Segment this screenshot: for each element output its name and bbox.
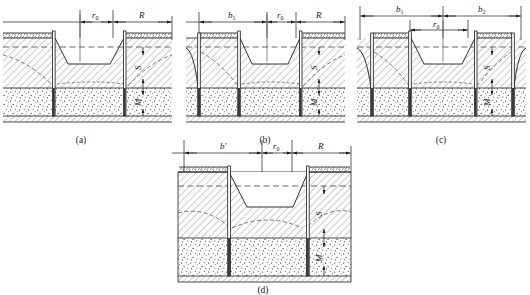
panel-b-label-r0: r0 [277, 10, 284, 21]
panel-c-label-M: M [482, 98, 492, 107]
panel-a-ground-hatch-right [126, 33, 172, 38]
panel-b-well-right [299, 31, 302, 116]
panel-d-label-R: R [317, 141, 324, 151]
figure-container: r0 R [0, 0, 530, 295]
panel-c-caption: (c) [436, 135, 447, 146]
panel-c-well-right [474, 31, 477, 116]
panel-b-well-left [238, 31, 241, 116]
panel-b-label-M: M [309, 98, 319, 107]
panel-b-label-b1: b1 [228, 10, 236, 21]
panel-a-label-S: S [133, 65, 143, 70]
panel-d: b′ r0 R [172, 140, 351, 295]
panel-c-ground-hatch-left [373, 33, 408, 38]
panel-c-dim-arrows [361, 16, 520, 30]
panel-d-aquifer-layer [178, 238, 351, 276]
panel-a-caption: (a) [76, 135, 87, 146]
panel-c-label-r0: r0 [433, 19, 440, 30]
panel-d-label-r0: r0 [273, 141, 280, 152]
panel-d-caption: (d) [257, 285, 268, 295]
panel-c-well-outer-right [512, 33, 515, 116]
panel-c-label-b1: b1 [396, 4, 404, 15]
panel-b-bedrock-base [186, 116, 345, 122]
panel-b-ground-hatch-right [302, 33, 345, 38]
panel-c-aquifer-layer [357, 88, 526, 116]
panel-c-label-b2: b2 [478, 4, 486, 15]
panel-a-label-M: M [133, 98, 143, 107]
panel-a-aquifer-layer [3, 88, 172, 116]
panel-c: b1 b2 r0 [357, 4, 526, 146]
panel-c-well-left [409, 31, 412, 116]
panel-a-ground-hatch-left [3, 33, 52, 38]
panel-d-ground-hatch-left [179, 167, 227, 172]
panel-d-ground-hatch-right [310, 167, 350, 172]
panel-d-bedrock-base [178, 276, 351, 282]
panel-c-well-outer-left [371, 33, 374, 116]
panel-c-bedrock-base [357, 116, 526, 122]
panel-a-well-right [123, 31, 126, 116]
panel-b-caption: (b) [259, 135, 270, 146]
panel-b-aquifer-layer [186, 88, 345, 116]
panel-b-label-R: R [315, 10, 322, 20]
panel-b-well-outer-left [198, 33, 201, 116]
panel-b-label-S: S [309, 65, 319, 70]
panel-a-label-R: R [138, 10, 145, 20]
panel-d-label-S: S [314, 211, 324, 216]
panel-a-well-left [53, 31, 56, 116]
panel-c-label-S: S [482, 65, 492, 70]
panel-b: b1 r0 R [186, 10, 345, 146]
panel-d-well-left [228, 166, 231, 276]
panel-a-bedrock-base [3, 116, 172, 122]
panel-a-label-r0: r0 [92, 10, 99, 21]
panel-d-well-right [306, 166, 309, 276]
panel-b-ground-hatch-left [200, 33, 237, 38]
panel-d-label-bprime: b′ [220, 141, 228, 151]
panel-a: r0 R [3, 10, 172, 146]
panel-c-ground-hatch-right [477, 33, 512, 38]
panel-d-label-M: M [314, 254, 324, 263]
